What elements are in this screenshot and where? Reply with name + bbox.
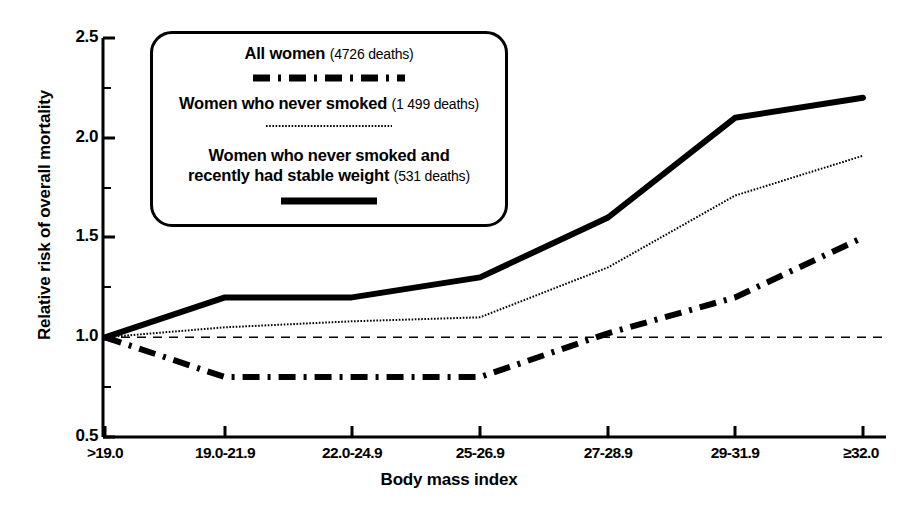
legend-label: Women who never smoked bbox=[179, 94, 387, 112]
solid-line-swatch-icon bbox=[279, 196, 379, 206]
legend-count: (1 499 deaths) bbox=[391, 96, 478, 112]
legend-label-line2: recently had stable weight bbox=[188, 166, 389, 184]
legend-label: All women bbox=[245, 44, 326, 62]
legend-count: (531 deaths) bbox=[394, 168, 470, 184]
legend-label-line1: Women who never smoked and bbox=[208, 146, 449, 164]
legend-count: (4726 deaths) bbox=[330, 46, 414, 62]
dotted-line-swatch bbox=[153, 118, 505, 134]
y-major-ticks bbox=[103, 38, 115, 437]
legend-box: All women (4726 deaths) Women who never … bbox=[150, 31, 508, 227]
series-line-never-smoked-stable-weight bbox=[105, 238, 863, 378]
x-major-ticks bbox=[105, 426, 863, 437]
legend-entry-all-women: All women (4726 deaths) bbox=[153, 44, 505, 64]
solid-line-swatch bbox=[153, 193, 505, 209]
dash-dot-line-swatch-icon bbox=[249, 72, 409, 84]
dotted-line-swatch-icon bbox=[264, 122, 394, 130]
legend-entry-never-smoked-stable-weight: Women who never smoked and recently had … bbox=[153, 146, 505, 186]
dash-dot-line-swatch bbox=[153, 70, 505, 86]
chart-figure: Relative risk of overall mortality 2.5 2… bbox=[0, 0, 898, 508]
legend-entry-never-smoked: Women who never smoked (1 499 deaths) bbox=[153, 94, 505, 114]
